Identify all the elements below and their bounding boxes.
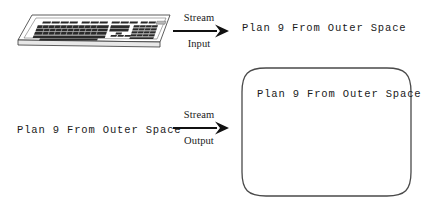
output-stream-text: Plan 9 From Outer Space: [17, 124, 181, 136]
stream-output-label-bottom: Output: [172, 135, 226, 146]
screen-outline-icon: [240, 66, 413, 198]
input-stream-text: Plan 9 From Outer Space: [242, 22, 406, 34]
arrow-right-icon: [173, 24, 231, 38]
diagram-canvas: Stream Input Plan 9 From Outer Space Pla…: [0, 0, 431, 212]
stream-input-label-top: Stream: [172, 12, 226, 23]
stream-input-label-bottom: Input: [172, 38, 226, 49]
keyboard-icon: [10, 6, 175, 54]
stream-input-arrow-group: Stream Input: [172, 11, 234, 55]
arrow-right-icon: [173, 121, 231, 135]
stream-output-label-top: Stream: [172, 109, 226, 120]
keyboard-illustration: [10, 6, 175, 54]
stream-output-arrow-group: Stream Output: [172, 108, 234, 152]
monitor-screen: Plan 9 From Outer Space: [240, 66, 413, 198]
screen-text: Plan 9 From Outer Space: [257, 88, 421, 100]
